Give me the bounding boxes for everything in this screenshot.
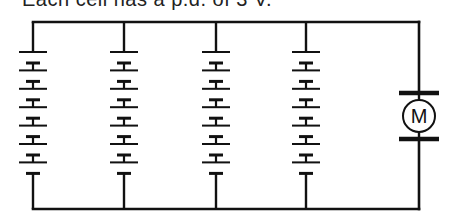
- branch-2: [110, 22, 138, 209]
- cell: [19, 162, 47, 173]
- cell: [202, 52, 230, 70]
- cell: [110, 52, 138, 70]
- cell: [110, 144, 138, 162]
- cell: [202, 107, 230, 125]
- cell: [110, 70, 138, 88]
- cell: [292, 126, 320, 144]
- cell: [292, 144, 320, 162]
- circuit-diagram: M: [0, 0, 449, 221]
- circuit-wires: [33, 22, 419, 209]
- cell: [292, 89, 320, 107]
- cell: [202, 89, 230, 107]
- cell: [19, 107, 47, 125]
- cell: [202, 144, 230, 162]
- cell: [19, 70, 47, 88]
- cell: [202, 126, 230, 144]
- cell: [292, 52, 320, 70]
- cell: [110, 162, 138, 173]
- cell: [110, 126, 138, 144]
- cell: [19, 52, 47, 70]
- battery-branches: [19, 22, 320, 209]
- cell: [19, 89, 47, 107]
- cell: [292, 70, 320, 88]
- cell: [292, 107, 320, 125]
- branch-1: [19, 22, 47, 209]
- branch-3: [202, 22, 230, 209]
- cell: [202, 70, 230, 88]
- cell: [110, 89, 138, 107]
- motor-symbol: M: [399, 93, 439, 139]
- motor-label: M: [411, 105, 428, 127]
- cell: [292, 162, 320, 173]
- cell: [19, 144, 47, 162]
- cell: [110, 107, 138, 125]
- branch-4: [292, 22, 320, 209]
- cell: [202, 162, 230, 173]
- cell: [19, 126, 47, 144]
